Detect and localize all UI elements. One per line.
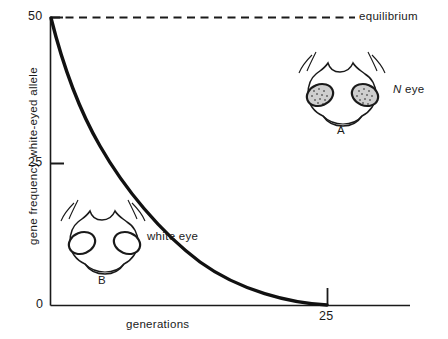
white-eye-label: white eye xyxy=(147,230,198,242)
y-axis-title: gene frequency white-eyed allele xyxy=(27,61,39,251)
n-eye-label: N eye xyxy=(393,83,425,95)
x-axis-tick-label-25: 25 xyxy=(319,309,333,323)
plot-svg xyxy=(0,0,448,339)
figure-container: 50 25 0 25 generations gene frequency wh… xyxy=(0,0,448,339)
y-axis-tick-label-0: 0 xyxy=(36,297,43,311)
fly-head-white-eye-illustration xyxy=(61,200,145,274)
panel-label-b: B xyxy=(98,274,106,286)
y-axis-tick-label-50: 50 xyxy=(28,9,42,23)
x-axis-title: generations xyxy=(126,318,189,330)
panel-label-a: A xyxy=(337,124,345,136)
n-eye-italic-n: N xyxy=(393,83,402,95)
equilibrium-label: equilibrium xyxy=(359,10,418,22)
fly-head-normal-eye-illustration xyxy=(299,52,385,126)
